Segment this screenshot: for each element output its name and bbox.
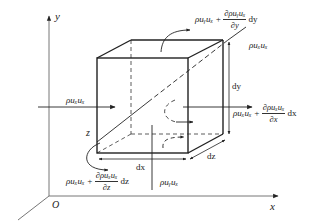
x-inflow-label: ρuₓuₓ bbox=[66, 96, 84, 105]
origin-label: O bbox=[52, 200, 59, 210]
y-inflow-label: ρuᵧuₓ bbox=[160, 178, 178, 187]
y-outflow-label: ρuᵧuₓ + ∂ρuᵧuₓ ∂y dy bbox=[195, 9, 257, 29]
z-outflow-label: ρuₓuₓ + ∂ρuₓuₓ ∂z dz bbox=[66, 171, 129, 191]
dy-label: dy bbox=[232, 82, 241, 91]
front-face bbox=[97, 58, 188, 153]
z-inflow-label: ρuₓuₓ bbox=[249, 41, 267, 50]
y-flux-arrows bbox=[152, 30, 190, 190]
z-axis bbox=[18, 196, 49, 220]
x-outflow-label: ρuₓuₓ + ∂ρuₓuₓ ∂x dx bbox=[233, 103, 296, 123]
x-axis-label: x bbox=[270, 201, 275, 212]
box-edges bbox=[97, 40, 223, 153]
hidden-edges bbox=[97, 40, 223, 153]
y-axis-label: y bbox=[55, 11, 60, 22]
control-volume-diagram: y x z O dx dy dz ρuₓuₓ ρuₓuₓ + ∂ρuₓuₓ ∂x… bbox=[0, 0, 326, 224]
dx-label: dx bbox=[136, 163, 145, 172]
z-axis-label: z bbox=[86, 128, 90, 138]
dz-label: dz bbox=[207, 152, 216, 161]
